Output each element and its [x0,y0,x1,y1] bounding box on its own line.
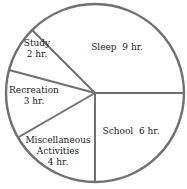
slice-label-sleep: Sleep 9 hr. [91,42,143,52]
pie-chart: Sleep 9 hr.Study2 hr.Recreation3 hr.Misc… [0,0,187,189]
slice-label-school: School 6 hr. [103,126,160,136]
slice-label-study: Study2 hr. [24,38,51,59]
